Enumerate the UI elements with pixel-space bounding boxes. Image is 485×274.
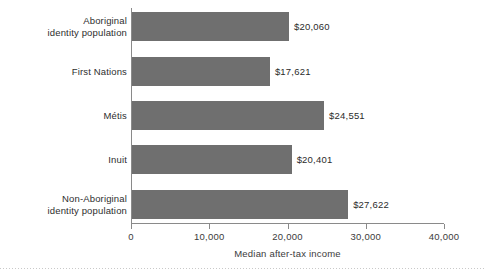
x-axis-tick-label: 0 — [128, 231, 133, 242]
x-axis-tick-label: 10,000 — [194, 231, 224, 242]
bar-row: Non-Aboriginal identity population $27,6… — [0, 190, 485, 219]
bar-category-label-line: Aboriginal — [83, 15, 127, 27]
bar-value-label: $17,621 — [275, 57, 311, 86]
bar-value-label: $20,401 — [297, 145, 333, 174]
bar-value-label: $24,551 — [329, 101, 365, 130]
x-axis-tick-mark — [209, 224, 210, 229]
x-axis-tick-mark — [288, 224, 289, 229]
bar — [132, 12, 289, 41]
bar-category-label-line: Métis — [104, 110, 127, 122]
bar-value-label: $20,060 — [294, 12, 330, 41]
bar — [132, 190, 348, 219]
bar-category-label-line: Non-Aboriginal — [62, 193, 127, 205]
bottom-divider — [0, 268, 485, 269]
bar-category-label-line: identity population — [48, 27, 127, 39]
bar-chart: Aboriginal identity population $20,060 F… — [0, 0, 485, 274]
x-axis-tick-mark — [444, 224, 445, 229]
x-axis-tick-mark — [131, 224, 132, 229]
bar-value-label: $27,622 — [353, 190, 389, 219]
x-axis-title: Median after-tax income — [131, 248, 444, 259]
bar-category-label-line: Inuit — [108, 154, 127, 166]
bar — [132, 145, 292, 174]
bar-category-label: Métis — [0, 101, 127, 130]
bar — [132, 57, 270, 86]
bar-category-label: First Nations — [0, 57, 127, 86]
bar-category-label-line: First Nations — [72, 66, 127, 78]
bar-row: Aboriginal identity population $20,060 — [0, 12, 485, 41]
bar-category-label: Aboriginal identity population — [0, 12, 127, 41]
bar-row: Métis $24,551 — [0, 101, 485, 130]
bar-row: First Nations $17,621 — [0, 57, 485, 86]
x-axis-tick-label: 20,000 — [272, 231, 302, 242]
bar-category-label: Inuit — [0, 145, 127, 174]
bar-category-label-line: identity population — [48, 205, 127, 217]
x-axis-tick-label: 30,000 — [351, 231, 381, 242]
bar-row: Inuit $20,401 — [0, 145, 485, 174]
x-axis-tick-mark — [366, 224, 367, 229]
x-axis-tick-label: 40,000 — [429, 231, 459, 242]
bar — [132, 101, 324, 130]
bar-category-label: Non-Aboriginal identity population — [0, 190, 127, 219]
